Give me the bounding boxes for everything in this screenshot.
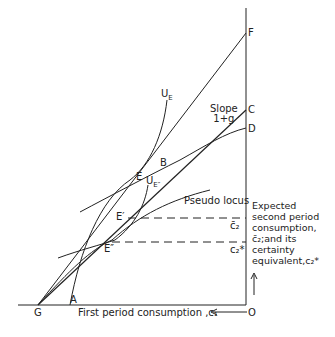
label-c2bar: c̄₂ (230, 220, 240, 231)
label-c2star: c₂* (230, 244, 245, 255)
label-A: A (70, 294, 77, 305)
curve-UE (70, 100, 167, 305)
label-E-double-prime: E″ (104, 243, 114, 254)
label-C: C (248, 104, 255, 115)
curve-UEstar (58, 185, 148, 258)
label-slope: Slope 1+g (210, 104, 238, 124)
label-E: E (136, 171, 142, 182)
label-D: D (248, 123, 256, 134)
label-pseudo-locus: Pseudo locus (184, 195, 249, 206)
label-G: G (34, 307, 42, 318)
label-O: O (248, 307, 256, 318)
label-UE: UE (161, 88, 173, 104)
label-UEstar: UE″ (146, 175, 160, 191)
label-E-prime: E′ (116, 211, 125, 222)
label-B: B (160, 157, 167, 168)
annotation-text: Expected second period consumption, c̄₂;… (252, 200, 319, 266)
x-axis-label: First period consumption ,c₁ (78, 307, 218, 318)
label-F: F (248, 27, 254, 38)
diagram-canvas (0, 0, 335, 337)
